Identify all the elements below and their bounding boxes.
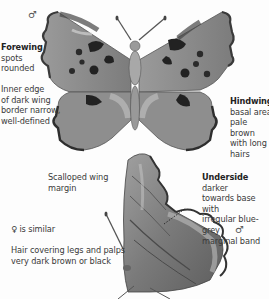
underside-line-2: towards base with bbox=[202, 193, 256, 214]
female-symbol: ♀ bbox=[11, 224, 17, 234]
left-hindwing bbox=[53, 92, 131, 150]
underside-heading: Underside bbox=[202, 172, 248, 182]
underside-annotation: Underside darker towards base with irreg… bbox=[202, 172, 269, 246]
hindwing-heading: Hindwing bbox=[230, 96, 269, 106]
hindwing-line-3: with long bbox=[230, 138, 267, 148]
hair-note: Hair covering legs and palps very dark b… bbox=[11, 245, 125, 266]
forewing-heading: Forewing bbox=[1, 42, 43, 52]
inner-edge-line-4: well-defined bbox=[1, 116, 50, 126]
hindwing-annotation: Hindwing basal area pale brown with long… bbox=[230, 96, 269, 160]
hindwing-line-2: pale brown bbox=[230, 117, 255, 138]
left-forewing bbox=[42, 12, 131, 92]
antennae bbox=[116, 16, 167, 41]
underside-line-3: irregular blue-grey bbox=[202, 214, 259, 235]
forewing-annotation: Forewing spots rounded bbox=[1, 42, 43, 74]
female-note: ♀ is similar bbox=[11, 224, 55, 235]
field-guide-plate: ♂ Forewing spots rounded Inner edge of d… bbox=[0, 0, 269, 299]
underside-line-4: marginal band bbox=[202, 236, 260, 246]
scalloped-line-1: Scalloped wing bbox=[48, 172, 108, 182]
male-symbol-underside: ♂ bbox=[235, 224, 244, 235]
right-forewing bbox=[139, 12, 234, 92]
right-hindwing bbox=[139, 92, 217, 150]
female-note-text: is similar bbox=[19, 224, 55, 234]
scalloped-line-2: margin bbox=[48, 183, 76, 193]
forewing-line-2: rounded bbox=[1, 63, 34, 73]
underside-line-1: darker bbox=[202, 183, 228, 193]
inner-edge-line-1: Inner edge bbox=[1, 84, 44, 94]
hair-note-line-2: very dark brown or black bbox=[11, 256, 111, 266]
inner-edge-line-2: of dark wing bbox=[1, 95, 51, 105]
hindwing-line-1: basal area bbox=[230, 107, 269, 117]
scalloped-margin-annotation: Scalloped wing margin bbox=[48, 172, 108, 193]
inner-edge-line-3: border narrow, bbox=[1, 105, 60, 115]
hair-note-line-1: Hair covering legs and palps bbox=[11, 245, 125, 255]
inner-edge-annotation: Inner edge of dark wing border narrow, w… bbox=[1, 84, 60, 126]
forewing-line-1: spots bbox=[1, 53, 22, 63]
male-symbol-upperside: ♂ bbox=[28, 9, 37, 20]
hindwing-line-4: hairs bbox=[230, 149, 250, 159]
